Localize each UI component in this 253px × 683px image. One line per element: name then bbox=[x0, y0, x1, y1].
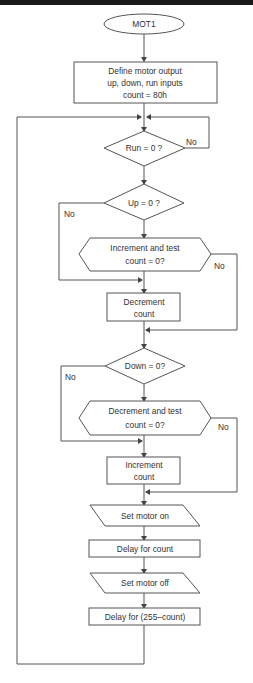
increment-line-2: count bbox=[134, 472, 155, 482]
node-motor-on: Set motor on bbox=[90, 505, 200, 526]
dec-test-no-label: No bbox=[218, 422, 229, 432]
node-delay-count: Delay for count bbox=[89, 540, 200, 557]
node-dec-test: Decrement and test count = 0? No bbox=[79, 401, 229, 435]
flowchart: MOT1 Define motor output up, down, run i… bbox=[0, 0, 253, 683]
init-line-3: count = 80h bbox=[123, 90, 167, 100]
run-no-label: No bbox=[186, 137, 197, 147]
start-label: MOT1 bbox=[132, 19, 156, 29]
node-motor-off: Set motor off bbox=[90, 573, 200, 593]
down-no-label: No bbox=[65, 372, 76, 382]
node-run-check: Run = 0 ? No bbox=[104, 131, 197, 166]
increment-line-1: Increment bbox=[125, 460, 163, 470]
node-increment: Increment count bbox=[107, 457, 180, 484]
decrement-line-1: Decrement bbox=[124, 297, 166, 307]
motor-on-label: Set motor on bbox=[121, 511, 169, 521]
delay-count-label: Delay for count bbox=[117, 544, 174, 554]
decrement-line-2: count bbox=[134, 309, 155, 319]
inc-test-line-2: count = 0? bbox=[125, 256, 165, 266]
inc-test-line-1: Increment and test bbox=[110, 243, 180, 253]
up-check-label: Up = 0 ? bbox=[128, 198, 160, 208]
node-delay-rest: Delay for (255–count) bbox=[89, 608, 200, 625]
node-start: MOT1 bbox=[104, 14, 184, 34]
inc-test-no-label: No bbox=[214, 261, 225, 271]
down-check-label: Down = 0? bbox=[125, 361, 166, 371]
node-inc-test: Increment and test count = 0? No bbox=[79, 238, 225, 271]
node-up-check: Up = 0 ? No bbox=[64, 184, 184, 220]
dec-test-line-2: count = 0? bbox=[125, 420, 165, 430]
connectors bbox=[17, 34, 237, 664]
node-init: Define motor output up, down, run inputs… bbox=[74, 62, 217, 103]
dec-test-line-1: Decrement and test bbox=[108, 406, 182, 416]
init-line-1: Define motor output bbox=[108, 66, 182, 76]
init-line-2: up, down, run inputs bbox=[107, 78, 182, 88]
run-check-label: Run = 0 ? bbox=[126, 143, 163, 153]
up-no-label: No bbox=[64, 209, 75, 219]
delay-rest-label: Delay for (255–count) bbox=[105, 612, 186, 622]
motor-off-label: Set motor off bbox=[121, 578, 169, 588]
node-decrement: Decrement count bbox=[107, 293, 180, 321]
